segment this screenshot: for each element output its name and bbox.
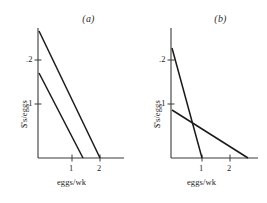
panel-b: (b) $'s/eggs eggs/wk .2 .1 1 2	[134, 0, 267, 203]
panel-a: (a) $'s/eggs eggs/wk .2 .1 1 2	[0, 0, 133, 203]
flat-demand-line	[172, 110, 248, 158]
panel-a-curves	[39, 31, 100, 158]
panel-b-plot	[134, 0, 267, 203]
outer-demand-line	[39, 31, 100, 158]
steep-demand-line	[172, 48, 202, 158]
panel-b-axes	[168, 28, 259, 162]
inner-demand-line	[39, 73, 83, 158]
panel-a-plot	[0, 0, 133, 203]
figure-container: (a) $'s/eggs eggs/wk .2 .1 1 2 (b) $'s/e…	[0, 0, 267, 203]
panel-b-curves	[172, 48, 248, 158]
